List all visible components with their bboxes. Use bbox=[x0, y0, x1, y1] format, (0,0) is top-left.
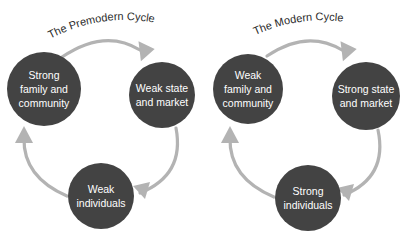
cycle-diagram-figure: The Premodern Cycle Strong family bbox=[0, 0, 402, 245]
arrowhead-icon bbox=[221, 126, 239, 143]
node-label-line2: individuals bbox=[76, 197, 125, 209]
node-label-line1: Strong bbox=[29, 69, 60, 81]
modern-node-individuals[interactable]: Strong individuals bbox=[275, 165, 341, 231]
arrowhead-icon bbox=[131, 41, 155, 64]
modern-node-state[interactable]: Strong state and market bbox=[332, 62, 400, 130]
modern-arrow-individuals-to-family bbox=[221, 126, 274, 197]
premodern-arrow-individuals-to-family bbox=[15, 126, 67, 196]
node-label-line1: Weak state bbox=[136, 82, 188, 94]
modern-arrow-family-to-state bbox=[267, 41, 357, 65]
node-label-line1: Strong bbox=[293, 185, 324, 197]
premodern-cycle-title: The Premodern Cycle bbox=[46, 10, 156, 41]
premodern-arrow-family-to-state bbox=[62, 41, 155, 65]
premodern-node-state[interactable]: Weak state and market bbox=[129, 62, 195, 128]
premodern-arrow-state-to-individuals bbox=[133, 128, 178, 199]
premodern-cycle-group: The Premodern Cycle Strong family bbox=[7, 10, 195, 229]
node-label-line2: individuals bbox=[283, 199, 332, 211]
arrowhead-icon bbox=[15, 126, 33, 143]
node-label-line1: Weak bbox=[235, 69, 262, 81]
node-label-line2: family and bbox=[224, 83, 272, 95]
modern-node-family[interactable]: Weak family and community bbox=[213, 54, 283, 124]
node-label-line1: Strong state bbox=[338, 83, 395, 95]
modern-arrow-state-to-individuals bbox=[337, 130, 380, 201]
arrowhead-icon bbox=[133, 182, 150, 199]
node-label-line1: Weak bbox=[88, 183, 115, 195]
node-label-line2: and market bbox=[136, 96, 189, 108]
arrowhead-icon bbox=[333, 41, 357, 64]
premodern-node-individuals[interactable]: Weak individuals bbox=[68, 163, 134, 229]
modern-cycle-group: The Modern Cycle Weak family and bbox=[213, 10, 400, 231]
premodern-node-family[interactable]: Strong family and community bbox=[7, 52, 81, 126]
modern-cycle-title: The Modern Cycle bbox=[251, 10, 344, 37]
node-label-line3: community bbox=[19, 97, 71, 109]
node-label-line3: community bbox=[223, 97, 275, 109]
node-label-line2: family and bbox=[20, 83, 68, 95]
node-label-line2: and market bbox=[340, 97, 393, 109]
cycles-svg-canvas: The Premodern Cycle Strong family bbox=[0, 0, 402, 245]
